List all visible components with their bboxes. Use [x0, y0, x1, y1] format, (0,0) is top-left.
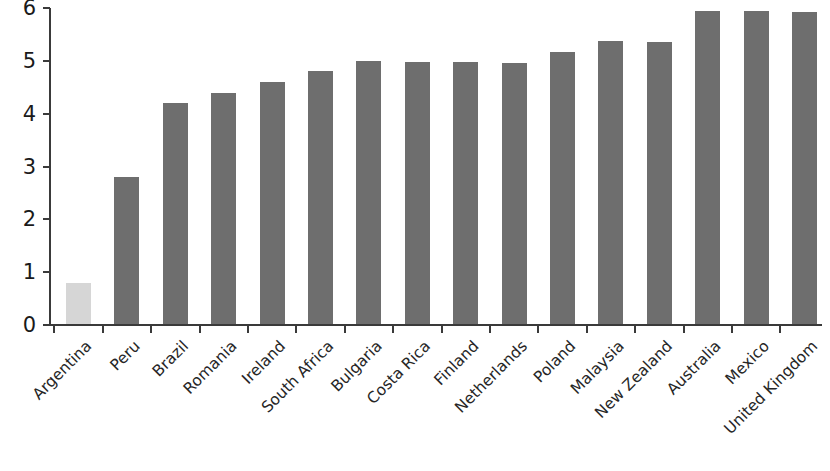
y-tick-label: 4	[23, 102, 36, 126]
x-tick-label: Peru	[107, 337, 144, 374]
bars-group	[66, 11, 817, 325]
bar	[453, 62, 478, 325]
x-tick-label: Brazil	[149, 337, 192, 380]
x-tick-label: United Kingdom	[721, 337, 822, 438]
bar	[308, 71, 333, 325]
bar	[66, 283, 91, 325]
bar	[114, 177, 139, 325]
y-tick-label: 1	[23, 260, 36, 284]
x-tick-label: Romania	[180, 337, 241, 398]
x-tick-label: Argentina	[29, 337, 95, 403]
bar-chart: 0123456 ArgentinaPeruBrazilRomaniaIrelan…	[0, 0, 830, 471]
bar	[405, 62, 430, 325]
y-tick-label: 5	[23, 49, 36, 73]
bar	[550, 52, 575, 325]
bar	[647, 42, 672, 325]
y-tick-label: 6	[23, 0, 36, 20]
y-tick-labels: 0123456	[23, 0, 36, 337]
bar	[260, 82, 285, 325]
bar	[695, 11, 720, 325]
y-tick-label: 2	[23, 207, 36, 231]
bar	[502, 63, 527, 325]
bar	[792, 12, 817, 325]
chart-canvas: 0123456 ArgentinaPeruBrazilRomaniaIrelan…	[0, 0, 830, 471]
y-axis	[43, 8, 50, 325]
bar	[356, 61, 381, 325]
bar	[163, 103, 188, 325]
x-tick-labels: ArgentinaPeruBrazilRomaniaIrelandSouth A…	[29, 337, 821, 438]
bar	[598, 41, 623, 325]
x-axis	[50, 325, 822, 333]
y-tick-label: 0	[23, 313, 36, 337]
y-tick-label: 3	[23, 155, 36, 179]
bar	[211, 93, 236, 326]
bar	[744, 11, 769, 325]
